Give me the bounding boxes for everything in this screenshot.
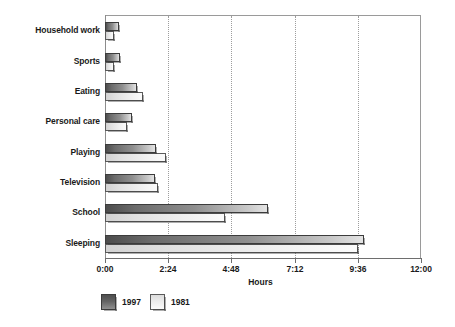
- x-axis-tick: [168, 259, 169, 263]
- bar-1981-eating: [105, 92, 143, 101]
- gridline: [295, 16, 296, 258]
- x-tick-label: 7:12: [286, 264, 303, 274]
- bar-1997-television: [105, 174, 155, 183]
- bar-1997-household-work: [105, 22, 119, 31]
- bar-1997-school: [105, 204, 268, 213]
- category-label: Playing: [0, 147, 100, 157]
- x-tick-label: 4:48: [222, 264, 239, 274]
- bar-1997-sports: [105, 53, 120, 62]
- x-axis-tick: [231, 259, 232, 263]
- x-tick-label: 0:00: [96, 264, 113, 274]
- category-label: Personal care: [0, 116, 100, 126]
- x-axis-tick: [421, 259, 422, 263]
- x-axis-tick: [105, 259, 106, 263]
- bar-chart: Household workSportsEatingPersonal careP…: [0, 0, 455, 327]
- x-axis-tick: [358, 259, 359, 263]
- x-tick-label: 9:36: [349, 264, 366, 274]
- x-axis-tick: [295, 259, 296, 263]
- x-tick-label: 12:00: [410, 264, 432, 274]
- bar-1981-household-work: [105, 31, 114, 40]
- gridline: [358, 16, 359, 258]
- chart-legend: 1997 1981: [101, 294, 190, 310]
- legend-label-1997: 1997: [122, 297, 141, 307]
- bar-1997-sleeping: [105, 235, 364, 244]
- bar-1981-sports: [105, 62, 114, 71]
- legend-item-1981: 1981: [150, 294, 190, 310]
- bar-1997-eating: [105, 83, 137, 92]
- bar-1981-television: [105, 183, 158, 192]
- legend-label-1981: 1981: [171, 297, 190, 307]
- category-label: Eating: [0, 86, 100, 96]
- x-axis-title: Hours: [0, 277, 455, 287]
- category-label: School: [0, 207, 100, 217]
- bar-1981-personal-care: [105, 122, 127, 131]
- bar-1997-personal-care: [105, 113, 132, 122]
- legend-item-1997: 1997: [101, 294, 141, 310]
- gridline: [231, 16, 232, 258]
- x-tick-label: 2:24: [159, 264, 176, 274]
- category-label: Sleeping: [0, 238, 100, 248]
- bar-1997-playing: [105, 144, 156, 153]
- bar-1981-sleeping: [105, 244, 358, 253]
- x-axis-line: [105, 258, 422, 259]
- bar-1981-playing: [105, 153, 166, 162]
- legend-swatch-1981-icon: [150, 294, 165, 310]
- x-axis-title-text: Hours: [248, 277, 273, 287]
- category-label: Sports: [0, 56, 100, 66]
- bar-1981-school: [105, 213, 225, 222]
- legend-swatch-1997-icon: [101, 294, 116, 310]
- category-label: Television: [0, 177, 100, 187]
- category-label: Household work: [0, 25, 100, 35]
